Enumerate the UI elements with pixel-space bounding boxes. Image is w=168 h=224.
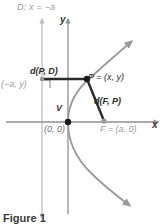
point-p-label: P = (x, y)	[88, 73, 124, 82]
figure-canvas	[0, 0, 168, 224]
distance-point-directrix-label: d(P, D)	[30, 67, 58, 76]
origin-label: (0, 0)	[44, 125, 65, 134]
right-angle-marker	[42, 80, 50, 88]
parabola-figure: D: x = −a y x d(P, D) (−a, y) P = (x, y)…	[0, 0, 168, 224]
directrix-label: D: x = −a	[17, 3, 55, 12]
vertex-label: V	[56, 104, 62, 113]
focus-label: F = (a, 0)	[100, 125, 137, 134]
vertex-dot	[65, 119, 71, 125]
foot-point-dot	[40, 77, 45, 82]
distance-focus-point-label: d(F, P)	[94, 97, 121, 106]
figure-caption: Figure 1	[3, 212, 46, 224]
x-axis-label: x	[152, 120, 158, 130]
y-axis-label: y	[60, 15, 66, 25]
parabola-lower-branch	[68, 122, 129, 205]
focus-dot	[101, 118, 106, 123]
foot-point-label: (−a, y)	[1, 80, 27, 89]
